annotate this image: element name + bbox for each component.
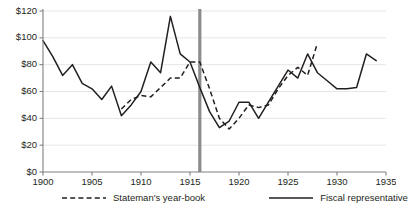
- svg-text:$100: $100: [16, 31, 37, 42]
- data-series: [43, 16, 376, 129]
- legend-swatch-dashed: [62, 193, 106, 203]
- svg-text:$40: $40: [21, 112, 37, 123]
- svg-text:1925: 1925: [277, 176, 298, 187]
- gridlines: [43, 11, 386, 145]
- svg-text:1920: 1920: [228, 176, 249, 187]
- svg-text:$60: $60: [21, 85, 37, 96]
- chart-legend: Stateman's year-book Fiscal representati…: [0, 188, 396, 208]
- legend-item-statemans-year-book: Stateman's year-book: [62, 193, 205, 203]
- svg-text:1905: 1905: [81, 176, 102, 187]
- svg-text:1930: 1930: [326, 176, 347, 187]
- legend-label-statemans-year-book: Stateman's year-book: [113, 193, 205, 203]
- x-axis-tick-labels: 19001905191019151920192519301935: [32, 176, 396, 187]
- svg-text:1900: 1900: [32, 176, 53, 187]
- svg-text:$20: $20: [21, 139, 37, 150]
- svg-text:1915: 1915: [179, 176, 200, 187]
- svg-text:$120: $120: [16, 5, 37, 16]
- y-axis-tick-labels: $0$20$40$60$80$100$120: [16, 5, 37, 177]
- svg-text:1910: 1910: [130, 176, 151, 187]
- legend-item-fiscal-representative: Fiscal representative: [269, 193, 408, 203]
- svg-text:$0: $0: [26, 166, 37, 177]
- svg-text:1935: 1935: [375, 176, 396, 187]
- legend-label-fiscal-representative: Fiscal representative: [320, 193, 408, 203]
- legend-swatch-solid: [269, 193, 313, 203]
- svg-text:$80: $80: [21, 58, 37, 69]
